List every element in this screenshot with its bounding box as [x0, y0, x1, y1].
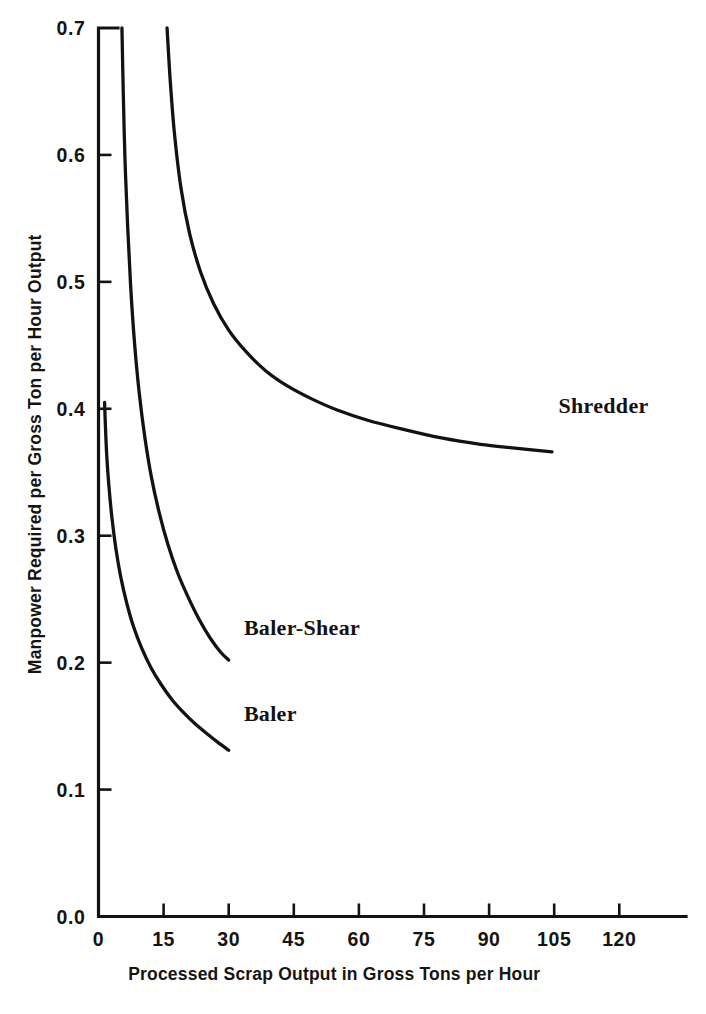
x-axis-tick-label: 75 — [413, 928, 436, 950]
y-axis-tick-label: 0.6 — [57, 144, 86, 166]
y-axis-tick-label: 0.7 — [57, 17, 86, 39]
y-axis-tick-label: 0.5 — [57, 271, 86, 293]
y-axis-tick-label: 0.1 — [57, 779, 86, 801]
y-axis-tick-label: 0.4 — [57, 398, 86, 420]
x-axis-tick-label: 45 — [282, 928, 305, 950]
series-label-baler: Baler — [244, 701, 297, 726]
x-axis-tick-label: 105 — [537, 928, 571, 950]
chart-container: 0.00.10.20.30.40.50.60.7 015304560759010… — [0, 0, 706, 1014]
x-axis-tick-label: 120 — [602, 928, 636, 950]
axis-lines — [99, 28, 687, 917]
series-line-baler-shear — [122, 28, 229, 660]
x-axis-tick-label: 15 — [152, 928, 175, 950]
x-axis-title: Processed Scrap Output in Gross Tons per… — [128, 964, 540, 984]
y-axis-ticks — [99, 155, 112, 790]
y-axis-tick-label: 0.0 — [57, 906, 86, 928]
series-line-shredder — [167, 28, 552, 452]
x-axis-tick-label: 60 — [347, 928, 370, 950]
x-axis-tick-labels: 0153045607590105120 — [93, 928, 637, 950]
series-annotations: ShredderBaler-ShearBaler — [244, 393, 649, 726]
series-line-baler — [105, 402, 229, 750]
x-axis-tick-label: 0 — [93, 928, 104, 950]
y-axis-tick-label: 0.3 — [57, 525, 86, 547]
y-axis-tick-labels: 0.00.10.20.30.40.50.60.7 — [57, 17, 86, 928]
y-axis-title: Manpower Required per Gross Ton per Hour… — [25, 234, 45, 674]
x-axis-tick-label: 30 — [217, 928, 240, 950]
axes-group — [99, 28, 687, 917]
x-axis-ticks — [164, 904, 620, 917]
series-label-baler-shear: Baler-Shear — [244, 615, 360, 640]
series-label-shredder: Shredder — [559, 393, 649, 418]
line-chart: 0.00.10.20.30.40.50.60.7 015304560759010… — [0, 0, 706, 1014]
y-axis-tick-label: 0.2 — [57, 652, 86, 674]
x-axis-tick-label: 90 — [478, 928, 501, 950]
series-curves — [105, 28, 552, 750]
